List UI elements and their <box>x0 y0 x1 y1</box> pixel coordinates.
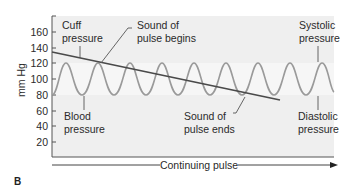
panel-label: B <box>14 176 21 187</box>
x-axis-label: Continuing pulse <box>160 159 238 171</box>
y-axis-label: mm Hg <box>15 63 27 97</box>
tick-80: 80 <box>36 89 48 101</box>
arrow-head-icon <box>330 162 338 168</box>
systolic-label-1: Systolic <box>299 19 335 31</box>
x-axis-arrow: Continuing pulse <box>52 159 338 171</box>
blood-pressure-diagram: 160 140 120 100 80 60 40 20 mm Hg Cuff p… <box>0 0 364 189</box>
y-tick-labels: 160 140 120 100 80 60 40 20 <box>30 26 48 148</box>
tick-100: 100 <box>30 73 48 85</box>
tick-40: 40 <box>36 120 48 132</box>
diastolic-label-1: Diastolic <box>298 110 338 122</box>
pulse-ends-label-1: Sound of <box>184 110 226 122</box>
tick-160: 160 <box>30 26 48 38</box>
systolic-label-2: pressure <box>299 32 340 44</box>
pulse-ends-label-2: pulse ends <box>184 123 235 135</box>
pulse-begins-label-1: Sound of <box>137 19 179 31</box>
tick-140: 140 <box>30 42 48 54</box>
blood-pressure-label-1: Blood <box>64 110 91 122</box>
diastolic-label-2: pressure <box>298 123 339 135</box>
cuff-pressure-label-1: Cuff <box>62 19 81 31</box>
cuff-pressure-label-2: pressure <box>62 32 103 44</box>
tick-120: 120 <box>30 57 48 69</box>
pulse-begins-label-2: pulse begins <box>137 32 196 44</box>
tick-60: 60 <box>36 105 48 117</box>
blood-pressure-label-2: pressure <box>64 123 105 135</box>
tick-20: 20 <box>36 136 48 148</box>
